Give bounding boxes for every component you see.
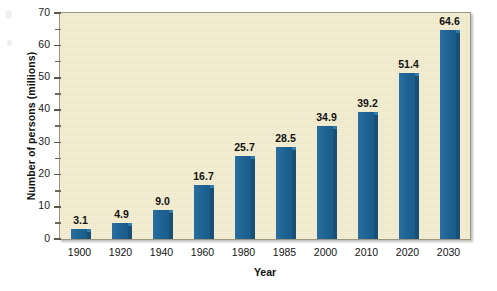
- y-axis-tick-label: 70: [28, 8, 50, 18]
- bar-face: [112, 223, 128, 239]
- y-axis-tick-label: 50: [28, 71, 50, 82]
- y-axis-tick-labels: 010203040506070: [28, 8, 52, 246]
- bar-side: [415, 76, 419, 239]
- scan-artifact-icon: [5, 10, 12, 19]
- bar-side: [210, 188, 214, 239]
- x-axis-tick-label: 1900: [57, 246, 103, 258]
- x-axis-tick-label: 1920: [98, 246, 144, 258]
- y-axis-tick: [54, 238, 61, 240]
- bar-side: [251, 159, 255, 239]
- x-axis-tick-label: 1985: [262, 246, 308, 258]
- bar: 4.9: [112, 223, 132, 239]
- bar-top: [292, 147, 296, 150]
- bar-face: [358, 112, 374, 239]
- y-axis-tick: [54, 142, 61, 144]
- y-axis-tick: [55, 158, 61, 160]
- x-axis-tick-labels: 1900192019401960198019852000201020202030: [59, 246, 471, 262]
- bar-value-label: 51.4: [392, 58, 426, 70]
- bar-face: [235, 156, 251, 239]
- bar-side: [292, 150, 296, 239]
- bar-value-label: 25.7: [228, 141, 262, 153]
- y-axis-tick: [54, 174, 61, 176]
- bar: 64.6: [440, 30, 460, 239]
- bar: 16.7: [194, 185, 214, 239]
- bar-side: [333, 129, 337, 239]
- y-axis-tick-label: 60: [28, 39, 50, 50]
- x-axis-tick-label: 1940: [139, 246, 185, 258]
- plot-area: 3.14.99.016.725.728.534.939.251.464.6: [59, 12, 471, 240]
- bars-layer: 3.14.99.016.725.728.534.939.251.464.6: [60, 13, 470, 239]
- bar: 34.9: [317, 126, 337, 239]
- x-axis-tick-label: 2030: [426, 246, 472, 258]
- bar-face: [317, 126, 333, 239]
- x-axis-tick-label: 2020: [385, 246, 431, 258]
- bar-value-label: 16.7: [187, 170, 221, 182]
- bar: 9.0: [153, 210, 173, 239]
- bar-face: [399, 73, 415, 239]
- bar-side: [128, 226, 132, 239]
- x-axis-tick-label: 2000: [303, 246, 349, 258]
- y-axis-tick-label: 20: [28, 168, 50, 179]
- bar-top: [210, 185, 214, 188]
- y-axis-tick: [55, 190, 61, 192]
- y-axis-tick: [55, 125, 61, 127]
- bar-value-label: 39.2: [351, 97, 385, 109]
- scan-artifact-icon: [7, 40, 12, 46]
- bar-value-label: 34.9: [310, 111, 344, 123]
- bar-value-label: 28.5: [269, 132, 303, 144]
- bar-top: [251, 156, 255, 159]
- y-axis-tick-label: 40: [28, 103, 50, 114]
- x-axis-tick-label: 1980: [221, 246, 267, 258]
- bar-top: [333, 126, 337, 129]
- y-axis-tick: [55, 93, 61, 95]
- bar-side: [456, 33, 460, 239]
- y-axis-tick: [54, 109, 61, 111]
- bar-top: [456, 30, 460, 33]
- y-axis-tick: [54, 45, 61, 47]
- bar: 28.5: [276, 147, 296, 239]
- bar: 3.1: [71, 229, 91, 239]
- y-axis-tick-label: 10: [28, 200, 50, 211]
- bar-value-label: 3.1: [64, 214, 98, 226]
- bar-value-label: 64.6: [433, 15, 467, 27]
- bar-side: [374, 115, 378, 239]
- bar-face: [153, 210, 169, 239]
- bar-face: [194, 185, 210, 239]
- x-axis-tick-label: 1960: [180, 246, 226, 258]
- x-axis-tick-label: 2010: [344, 246, 390, 258]
- y-axis-tick: [54, 12, 61, 14]
- bar-side: [87, 232, 91, 239]
- y-axis-tick-label: 30: [28, 136, 50, 147]
- y-axis-tick-label: 0: [28, 233, 50, 244]
- chart-figure: Number of persons (millions) 01020304050…: [0, 0, 497, 291]
- y-axis-tick: [55, 29, 61, 31]
- y-axis-tick: [55, 61, 61, 63]
- bar-face: [276, 147, 292, 239]
- bar: 51.4: [399, 73, 419, 239]
- y-axis-tick: [54, 77, 61, 79]
- bar-top: [169, 210, 173, 213]
- bar-top: [87, 229, 91, 232]
- bar-top: [128, 223, 132, 226]
- bar-value-label: 9.0: [146, 195, 180, 207]
- y-axis-tick: [55, 222, 61, 224]
- bar-face: [440, 30, 456, 239]
- x-axis-title: Year: [59, 266, 471, 278]
- bar: 39.2: [358, 112, 378, 239]
- bar-top: [374, 112, 378, 115]
- bar-face: [71, 229, 87, 239]
- bar-value-label: 4.9: [105, 208, 139, 220]
- bar: 25.7: [235, 156, 255, 239]
- y-axis-tick: [54, 206, 61, 208]
- bar-side: [169, 213, 173, 239]
- bar-top: [415, 73, 419, 76]
